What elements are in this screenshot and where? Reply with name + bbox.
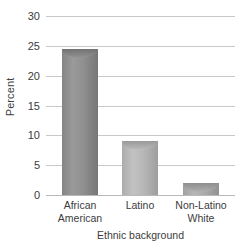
y-axis-title: Percent [0,0,20,194]
plot-area: 051015202530 [46,16,235,195]
x-category-label-line: White [156,212,245,225]
y-tick-label-20: 20 [28,70,40,82]
bars-layer [46,16,235,195]
x-category-label-line: Non-Latino [156,199,245,212]
bar [122,141,158,195]
bar-chart: Percent 051015202530 AfricanAmericanLati… [0,0,245,246]
y-tick-label-5: 5 [34,159,40,171]
bar [183,183,219,195]
bar-body [62,49,98,195]
gridline-0: 0 [46,195,235,196]
x-axis-title: Ethnic background [46,229,235,241]
x-category-label: Non-LatinoWhite [156,199,245,224]
y-tick-label-30: 30 [28,10,40,22]
y-tick-label-25: 25 [28,40,40,52]
y-tick-label-15: 15 [28,100,40,112]
x-axis-category-labels: AfricanAmericanLatinoNon-LatinoWhite [46,199,235,227]
y-tick-label-10: 10 [28,129,40,141]
x-category-label-line: American [35,212,125,225]
y-axis-title-label: Percent [4,78,16,117]
bar [62,49,98,195]
